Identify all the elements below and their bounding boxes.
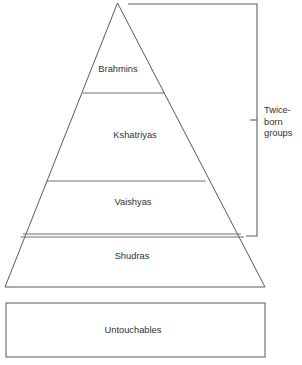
- tier-label-shudras: Shudras: [115, 251, 150, 261]
- tier-label-brahmins: Brahmins: [98, 64, 138, 74]
- caste-hierarchy-diagram: Brahmins Kshatriyas Vaishyas Shudras Twi…: [0, 0, 302, 365]
- diagram-canvas: Brahmins Kshatriyas Vaishyas Shudras Twi…: [0, 0, 302, 365]
- tier-label-kshatriyas: Kshatriyas: [113, 130, 157, 140]
- caste-pyramid-outline: [5, 3, 265, 287]
- bracket-label-line-3: groups: [264, 128, 293, 138]
- tier-label-vaishyas: Vaishyas: [114, 197, 151, 207]
- untouchables-label: Untouchables: [105, 325, 162, 335]
- bracket-label-line-1: Twice-: [264, 105, 291, 115]
- bracket-label-line-2: born: [264, 117, 283, 127]
